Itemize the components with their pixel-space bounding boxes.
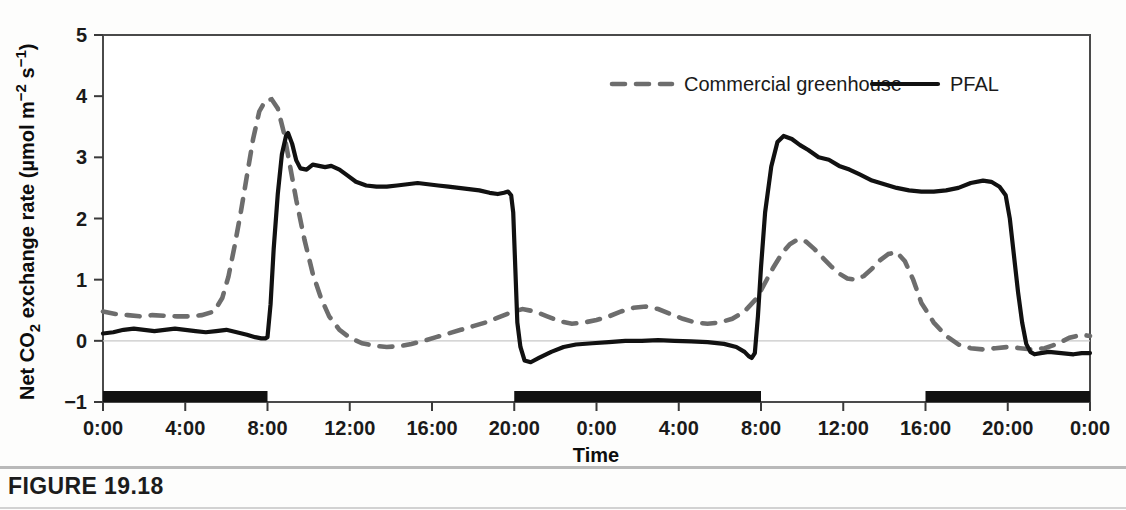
y-axis-title: Net CO2 exchange rate (µmol m−2 s−1) xyxy=(12,44,43,400)
night-period-bars xyxy=(103,391,1090,402)
x-axis-ticks xyxy=(103,402,1090,411)
x-tick-label-10: 16:00 xyxy=(900,417,951,439)
x-tick-label-11: 20:00 xyxy=(982,417,1033,439)
chart-canvas: −1012345 0:004:008:0012:0016:0020:000:00… xyxy=(0,0,1126,466)
y-tick-label-4: 3 xyxy=(76,146,87,168)
night-bar-2 xyxy=(926,391,1091,402)
x-tick-label-6: 0:00 xyxy=(576,417,616,439)
y-axis-title-suffix: ) xyxy=(16,44,38,51)
x-tick-label-7: 4:00 xyxy=(659,417,699,439)
x-tick-label-1: 4:00 xyxy=(165,417,205,439)
y-axis-title-text: Net CO2 exchange rate (µmol m−2 s−1) xyxy=(12,44,43,400)
y-tick-label-1: 0 xyxy=(76,330,87,352)
y-axis-title-sub: 2 xyxy=(26,324,43,332)
x-tick-label-5: 20:00 xyxy=(489,417,540,439)
y-axis-title-prefix: Net CO xyxy=(16,332,38,400)
y-axis-ticks xyxy=(94,35,103,402)
x-tick-label-9: 12:00 xyxy=(818,417,869,439)
x-tick-label-8: 8:00 xyxy=(741,417,781,439)
y-axis-tick-labels: −1012345 xyxy=(64,24,88,413)
caption-divider-top xyxy=(0,466,1126,469)
x-tick-label-12: 0:00 xyxy=(1070,417,1110,439)
figure-container: −1012345 0:004:008:0012:0016:0020:000:00… xyxy=(0,0,1126,510)
x-axis-tick-labels: 0:004:008:0012:0016:0020:000:004:008:001… xyxy=(83,417,1110,439)
night-bar-1 xyxy=(514,391,761,402)
y-axis-title-sup2: −1 xyxy=(12,50,29,67)
y-axis-title-middle: exchange rate (µmol m xyxy=(16,101,38,324)
night-bar-0 xyxy=(103,391,268,402)
y-axis-title-sup1: −2 xyxy=(12,84,29,101)
y-tick-label-6: 5 xyxy=(76,24,87,46)
y-tick-label-2: 1 xyxy=(76,269,87,291)
legend-label-commercial-greenhouse: Commercial greenhouse xyxy=(684,73,902,95)
plot-background xyxy=(103,35,1090,402)
y-tick-label-5: 4 xyxy=(76,85,88,107)
figure-caption-text: FIGURE 19.18 xyxy=(8,473,164,500)
y-axis-title-mid2: s xyxy=(16,67,38,84)
x-tick-label-3: 12:00 xyxy=(324,417,375,439)
figure-caption-area: FIGURE 19.18 xyxy=(0,466,1126,510)
caption-divider-bottom xyxy=(0,507,1126,509)
legend-label-pfal: PFAL xyxy=(950,73,999,95)
y-tick-label-3: 2 xyxy=(76,208,87,230)
x-tick-label-0: 0:00 xyxy=(83,417,123,439)
plot-frame xyxy=(103,35,1090,402)
x-axis-title: Time xyxy=(573,444,619,466)
x-tick-label-2: 8:00 xyxy=(247,417,287,439)
y-tick-label-0: −1 xyxy=(64,391,87,413)
x-tick-label-4: 16:00 xyxy=(406,417,457,439)
